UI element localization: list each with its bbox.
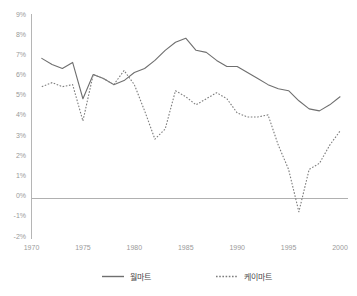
x-tick-label: 1990 [229,244,245,251]
y-tick-label: -2% [14,233,26,240]
y-tick-label: 1% [16,172,26,179]
x-tick-label: 1995 [281,244,297,251]
y-tick-label: 6% [16,71,26,78]
x-axis-tick-labels: 1970197519801985199019952000 [24,244,348,251]
y-tick-label: 4% [16,111,26,118]
x-tick-label: 2000 [332,244,348,251]
legend-label-kmart: 케이마트 [244,272,272,282]
y-tick-label: -1% [14,212,26,219]
series-lines [42,38,340,212]
x-tick-label: 1970 [24,244,40,251]
legend: 월마트 케이마트 [102,272,272,282]
y-tick-label: 3% [16,132,26,139]
chart-canvas: 9%8%7%6%5%4%3%2%1%0%-1%-2% 1970197519801… [0,0,357,296]
line-chart: 9%8%7%6%5%4%3%2%1%0%-1%-2% 1970197519801… [0,0,357,296]
y-axis-tick-labels: 9%8%7%6%5%4%3%2%1%0%-1%-2% [14,11,26,240]
y-tick-label: 5% [16,91,26,98]
x-tick-label: 1980 [127,244,143,251]
x-tick-label: 1975 [75,244,91,251]
y-tick-label: 7% [16,51,26,58]
legend-label-walmart: 월마트 [130,272,151,282]
y-tick-label: 2% [16,152,26,159]
y-tick-label: 9% [16,11,26,18]
y-tick-label: 8% [16,31,26,38]
y-tick-label: 0% [16,192,26,199]
series-line-walmart [42,38,340,111]
x-tick-label: 1985 [178,244,194,251]
